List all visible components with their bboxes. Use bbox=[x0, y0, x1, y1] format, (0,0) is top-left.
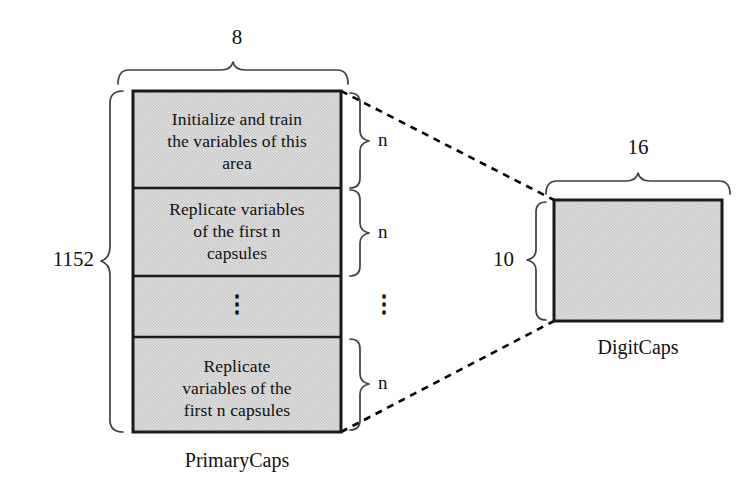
digitcaps-box[interactable] bbox=[554, 200, 722, 321]
brace-group-2 bbox=[350, 190, 369, 276]
primarycaps-cell-replicate-2[interactable]: Replicate variables of the first n capsu… bbox=[139, 355, 335, 421]
figure-canvas: 8 1152 Initialize and train the variable… bbox=[0, 0, 754, 501]
digitcaps-caption: DigitCaps bbox=[554, 336, 722, 358]
cell-line: variables of the bbox=[139, 377, 335, 399]
primarycaps-cell-ellipsis: ⋮ bbox=[133, 292, 341, 316]
group-label-n-3: n bbox=[378, 372, 402, 393]
group-label-n-2: n bbox=[378, 221, 402, 242]
cell-line: of the first n bbox=[139, 220, 335, 242]
cell-line: area bbox=[139, 152, 335, 174]
primarycaps-cell-replicate-1[interactable]: Replicate variables of the first n capsu… bbox=[139, 198, 335, 264]
cell-line: Replicate variables bbox=[139, 198, 335, 220]
primarycaps-height-label: 1152 bbox=[16, 248, 94, 272]
group-label-n-1: n bbox=[378, 129, 402, 150]
group-label-ellipsis: ⋮ bbox=[372, 292, 396, 316]
connector-top-line bbox=[341, 91, 554, 200]
cell-line: capsules bbox=[139, 242, 335, 264]
brace-group-4 bbox=[350, 339, 369, 430]
connector-bottom-line bbox=[341, 321, 554, 432]
brace-primarycaps-width bbox=[118, 62, 348, 84]
digitcaps-width-label: 16 bbox=[554, 136, 722, 160]
brace-group-1 bbox=[350, 93, 369, 188]
figure-vector-layer bbox=[0, 0, 754, 501]
primarycaps-caption: PrimaryCaps bbox=[133, 449, 341, 471]
cell-line: Replicate bbox=[139, 355, 335, 377]
brace-primarycaps-height bbox=[101, 91, 123, 432]
digitcaps-height-label: 10 bbox=[448, 248, 514, 272]
cell-line: first n capsules bbox=[139, 399, 335, 421]
primarycaps-width-label: 8 bbox=[133, 26, 341, 50]
cell-line: the variables of this bbox=[139, 130, 335, 152]
cell-line: Initialize and train bbox=[139, 108, 335, 130]
brace-digitcaps-width bbox=[546, 173, 730, 194]
primarycaps-cell-initialize[interactable]: Initialize and train the variables of th… bbox=[139, 108, 335, 174]
brace-digitcaps-height bbox=[527, 202, 546, 320]
